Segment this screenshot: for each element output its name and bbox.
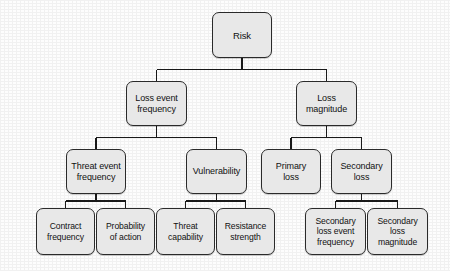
- node-risk[interactable]: Risk: [212, 12, 272, 58]
- node-label: Secondary loss event frequency: [313, 216, 357, 247]
- node-loss-magnitude[interactable]: Loss magnitude: [296, 81, 357, 126]
- node-label: Threat event frequency: [69, 161, 122, 183]
- node-label: Loss magnitude: [304, 93, 349, 115]
- node-loss-event-frequency[interactable]: Loss event frequency: [126, 81, 187, 126]
- node-label: Loss event frequency: [133, 93, 180, 115]
- node-secondary-loss-magnitude[interactable]: Secondary loss magnitude: [367, 208, 428, 255]
- node-label: Risk: [231, 30, 253, 41]
- node-resistance-strength[interactable]: Resistance strength: [216, 208, 275, 255]
- node-label: Secondary loss: [338, 161, 384, 183]
- risk-taxonomy-diagram: RiskLoss event frequencyLoss magnitudeTh…: [0, 0, 450, 271]
- node-label: Threat capability: [166, 221, 205, 241]
- node-label: Vulnerability: [191, 166, 242, 177]
- node-threat-capability[interactable]: Threat capability: [156, 208, 215, 255]
- node-label: Primary loss: [274, 161, 308, 183]
- node-primary-loss[interactable]: Primary loss: [261, 149, 321, 194]
- node-threat-event-frequency[interactable]: Threat event frequency: [66, 149, 126, 194]
- node-contract-frequency[interactable]: Contract frequency: [36, 208, 95, 255]
- node-probability-of-action[interactable]: Probability of action: [96, 208, 155, 255]
- node-label: Probability of action: [104, 221, 147, 241]
- node-vulnerability[interactable]: Vulnerability: [186, 149, 247, 194]
- node-label: Secondary loss magnitude: [375, 216, 419, 247]
- node-secondary-loss-event-frequency[interactable]: Secondary loss event frequency: [305, 208, 366, 255]
- node-label: Resistance strength: [223, 221, 269, 241]
- node-secondary-loss[interactable]: Secondary loss: [331, 149, 392, 194]
- node-label: Contract frequency: [45, 221, 86, 241]
